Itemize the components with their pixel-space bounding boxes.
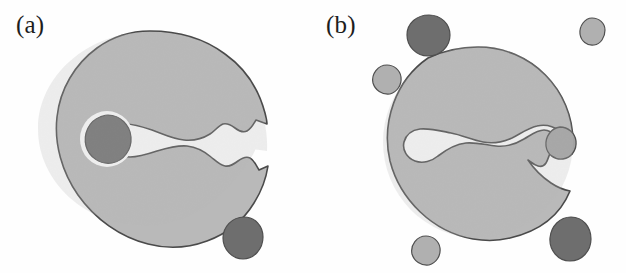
light-satellite-top-right <box>580 18 605 45</box>
panel-a-graphic <box>0 0 313 273</box>
dark-satellite-top-left <box>407 15 450 56</box>
dark-satellite-lower-right <box>223 217 263 259</box>
panel-a: (a) <box>0 0 313 273</box>
dark-satellite-bottom-right <box>550 217 591 261</box>
panel-b-graphic <box>313 0 626 273</box>
light-satellite-bottom-left <box>412 236 440 265</box>
figure-root: (a) <box>0 0 626 273</box>
light-satellite-mid-left <box>373 65 401 94</box>
panel-a-label: (a) <box>16 12 44 37</box>
panel-b: (b) <box>313 0 626 273</box>
panel-b-label: (b) <box>326 12 356 37</box>
